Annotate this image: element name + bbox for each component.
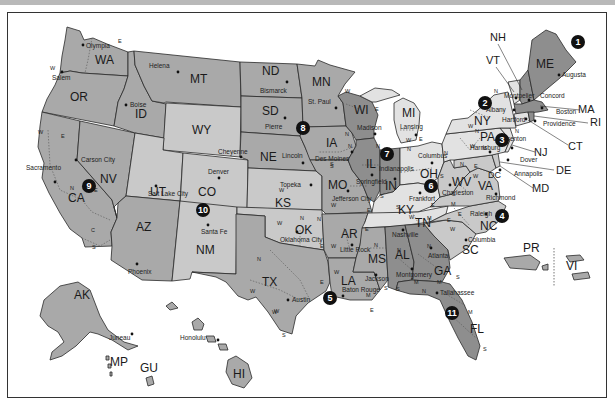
circuit-8-marker[interactable]: 8 (296, 121, 310, 135)
capital-boise: Boise (130, 101, 147, 108)
capital-austin: Austin (292, 296, 310, 303)
label-ak: AK (74, 288, 90, 302)
district-letter: N (376, 143, 380, 149)
capital-olympia: Olympia (86, 42, 110, 50)
capital-augusta: Augusta (562, 71, 586, 79)
district-letter: S (384, 285, 388, 291)
district-letter: E (370, 307, 374, 313)
label-ne: NE (260, 150, 277, 164)
district-letter: N (515, 128, 519, 134)
label-hi: HI (233, 367, 245, 381)
circuit-9-marker[interactable]: 9 (82, 179, 96, 193)
district-letter: N (422, 288, 426, 294)
capital-jefferson-city: Jefferson City (332, 195, 372, 203)
district-letter: W (279, 187, 285, 193)
capital-bismarck: Bismarck (260, 87, 287, 94)
svg-text:10: 10 (198, 205, 208, 215)
territory-pr[interactable] (504, 255, 548, 270)
circuit-6-marker[interactable]: 6 (424, 179, 438, 193)
district-letter: N (460, 161, 464, 167)
label-tx: TX (262, 275, 277, 289)
district-letter: N (444, 150, 448, 156)
district-letter: N (348, 143, 352, 149)
district-letter: W (409, 214, 415, 220)
label-wv: WV (452, 175, 471, 189)
capital-atlanta: Atlanta (428, 252, 449, 259)
label-az: AZ (136, 220, 151, 234)
district-letter: S (282, 332, 286, 338)
label-pr: PR (523, 241, 540, 255)
circuit-7-marker[interactable]: 7 (380, 147, 394, 161)
circuit-11-marker[interactable]: 11 (445, 306, 459, 320)
label-ca: CA (68, 191, 85, 205)
circuit-4-marker[interactable]: 4 (495, 209, 509, 223)
district-letter: W (277, 220, 283, 226)
capital-raleigh: Raleigh (470, 210, 492, 218)
label-wi: WI (354, 103, 369, 117)
capital-indianapolis: Indianapolis (379, 165, 414, 173)
territory-gu[interactable] (146, 376, 154, 386)
callout-de: DE (556, 164, 571, 176)
district-letter: W (473, 173, 479, 179)
state-wa[interactable] (60, 27, 128, 76)
label-me: ME (536, 57, 554, 71)
district-letter: E (365, 226, 369, 232)
district-letter: S (396, 204, 400, 210)
callout-ri: RI (590, 116, 601, 128)
district-letter: N (374, 242, 378, 248)
district-letter: M (427, 215, 432, 221)
label-sc: SC (462, 243, 479, 257)
state-hi-islands[interactable] (166, 302, 228, 350)
capital-sacramento: Sacramento (26, 164, 61, 171)
district-letter: W (331, 243, 337, 249)
capital-providence: Providence (543, 120, 576, 127)
label-ks: KS (275, 196, 291, 210)
label-nd: ND (262, 64, 280, 78)
capital-santa-fe: Santa Fe (201, 228, 228, 235)
district-letter: W (272, 309, 278, 315)
district-letter: W (345, 88, 351, 94)
capital-concord: Concord (540, 92, 565, 99)
district-letter: N (494, 88, 498, 94)
capital-salem: Salem (52, 74, 70, 81)
capital-st-paul: St. Paul (308, 98, 331, 105)
circuit-10-marker[interactable]: 10 (196, 203, 210, 217)
capital-lansing: Lansing (400, 123, 423, 131)
district-letter: E (320, 243, 324, 249)
capital-helena: Helena (149, 62, 170, 69)
capital-boston: Boston (556, 108, 577, 115)
district-letter: E (419, 136, 423, 142)
capital-pierre: Pierre (265, 123, 283, 130)
district-letter: S (92, 244, 96, 250)
district-letter: S (330, 163, 334, 169)
circuit-2-marker[interactable]: 2 (478, 96, 492, 110)
capital-juneau: Juneau (109, 334, 131, 341)
district-letter: M (366, 292, 371, 298)
label-nv: NV (100, 172, 117, 186)
district-letter: E (458, 211, 462, 217)
callout-vt: VT (486, 54, 500, 66)
district-letter: E (431, 202, 435, 208)
label-mi: MI (402, 106, 415, 120)
svg-text:1: 1 (575, 37, 580, 47)
label-ny: NY (474, 114, 491, 128)
district-letter: S (456, 274, 460, 280)
capital-salt-lake-city: Salt Lake City (148, 190, 189, 198)
district-letter: W (38, 129, 44, 135)
label-id: ID (135, 107, 147, 121)
svg-text:7: 7 (384, 149, 389, 159)
label-wa: WA (95, 53, 114, 67)
circuit-5-marker[interactable]: 5 (323, 291, 337, 305)
circuit-3-marker[interactable]: 3 (495, 133, 509, 147)
label-wy: WY (192, 123, 211, 137)
district-letter: N (317, 216, 321, 222)
label-oh: OH (420, 167, 438, 181)
label-ga: GA (434, 264, 451, 278)
capital-charleston: Charleston (442, 189, 474, 196)
label-mt: MT (190, 72, 208, 86)
district-letter: N (345, 131, 349, 137)
capital-montgomery: Montgomery (396, 271, 433, 279)
capital-cheyenne: Cheyenne (218, 148, 248, 156)
callout-md: MD (532, 182, 549, 194)
circuit-1-marker[interactable]: 1 (571, 35, 585, 49)
